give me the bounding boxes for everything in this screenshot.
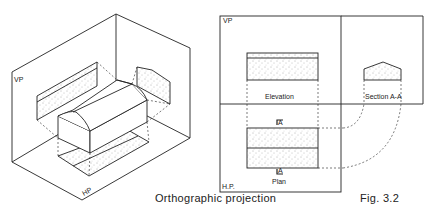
- orthographic-view: [220, 16, 423, 192]
- figure-caption: Orthographic projection: [155, 192, 276, 204]
- section-shape: [364, 62, 401, 80]
- section-label: Section A-A: [365, 93, 402, 100]
- elevation-label: Elevation: [265, 93, 294, 100]
- plan-label: Plan: [272, 178, 286, 185]
- cut-marker-bottom: A: [278, 167, 283, 174]
- ortho-vp-label: VP: [223, 17, 232, 24]
- cut-marker-top: A: [278, 119, 283, 126]
- elevation-rect: [247, 53, 318, 80]
- section-frame: [341, 16, 423, 104]
- ortho-hp-label: H.P.: [222, 183, 235, 190]
- isometric-view: [12, 14, 190, 200]
- iso-vp-label: VP: [14, 76, 23, 83]
- diagram-canvas: [0, 0, 437, 214]
- figure-number: Fig. 3.2: [360, 192, 399, 204]
